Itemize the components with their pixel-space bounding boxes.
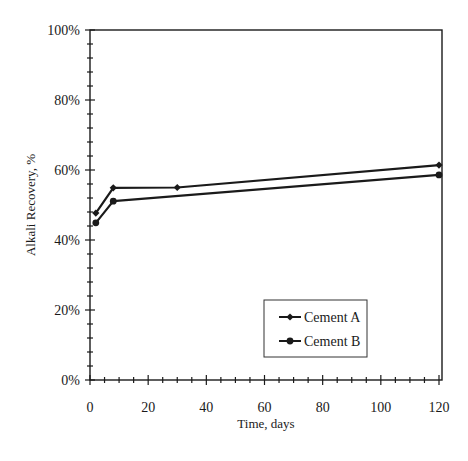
y-tick-label: 100%: [47, 23, 80, 38]
series-line: [96, 175, 439, 223]
y-tick-label: 0%: [61, 373, 80, 388]
legend-label: Cement A: [304, 310, 361, 325]
x-tick-label: 100: [370, 400, 391, 415]
y-axis-title: Alkali Recovery, %: [23, 154, 38, 256]
circle-marker: [92, 219, 99, 226]
circle-marker: [436, 172, 443, 179]
x-tick-label: 60: [258, 400, 272, 415]
circle-marker: [110, 198, 117, 205]
x-tick-label: 20: [141, 400, 155, 415]
x-tick-label: 0: [87, 400, 94, 415]
legend-label: Cement B: [304, 334, 360, 349]
y-tick-label: 60%: [54, 163, 80, 178]
circle-marker: [287, 338, 294, 345]
x-axis: 020406080100120: [87, 375, 450, 415]
y-tick-label: 20%: [54, 303, 80, 318]
legend: Cement ACement B: [264, 300, 367, 357]
series-layer: [92, 162, 442, 227]
x-axis-title: Time, days: [237, 416, 294, 431]
x-tick-label: 40: [199, 400, 213, 415]
x-tick-label: 120: [429, 400, 450, 415]
y-tick-label: 80%: [54, 93, 80, 108]
line-chart: 020406080100120 0%20%40%60%80%100% Time,…: [0, 0, 468, 461]
y-tick-label: 40%: [54, 233, 80, 248]
x-tick-label: 80: [316, 400, 330, 415]
y-axis: 0%20%40%60%80%100%: [47, 23, 95, 388]
diamond-marker: [174, 184, 181, 191]
